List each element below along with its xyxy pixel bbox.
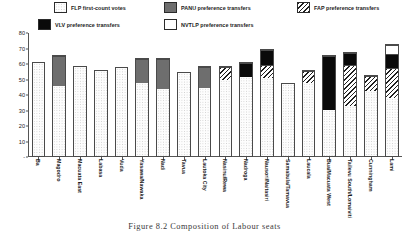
stacked-bar[interactable]: [239, 62, 253, 157]
stacked-bar[interactable]: [94, 70, 108, 157]
x-label-slot: Nasinu/Rewa: [215, 159, 236, 217]
bar-slot: [236, 33, 257, 157]
x-label-slot: Nadi: [153, 159, 174, 217]
stacked-bar[interactable]: [177, 72, 191, 157]
y-tick-label: 80: [19, 30, 25, 36]
stacked-bar[interactable]: [343, 52, 357, 157]
legend-item-flp: FLP first-count votes: [54, 2, 126, 13]
y-tick-label: 40: [19, 92, 25, 98]
bar-segment-fap: [261, 65, 273, 79]
bar-segment-fap: [220, 67, 232, 81]
y-tick-label: 20: [19, 123, 25, 129]
x-tick-label: Ba: [35, 159, 41, 166]
bar-segment-flp: [74, 67, 86, 156]
x-label-slot: Labasa: [90, 159, 111, 217]
x-tick-label: Nasinu/Rewa: [222, 159, 228, 192]
y-tick-label: 60: [19, 61, 25, 67]
y-tick-label: 30: [19, 108, 25, 114]
bar-slot: [153, 33, 174, 157]
x-label-slot: Ba: [28, 159, 49, 217]
dotted-light-swatch-icon: [54, 2, 67, 13]
bar-segment-flp: [136, 83, 148, 156]
legend-item-nvtlp: NVTLP preference transfers: [164, 19, 254, 30]
plot-area: -1020304050607080: [28, 33, 402, 157]
legend-label-nvtlp: NVTLP preference transfers: [181, 22, 254, 28]
bar-segment-vlv: [323, 56, 335, 111]
stacked-bar[interactable]: [219, 66, 233, 157]
x-label-slot: Nadroga: [236, 159, 257, 217]
bar-segment-panu: [199, 67, 211, 88]
stacked-bar[interactable]: [322, 55, 336, 157]
bar-slot: [340, 33, 361, 157]
x-label-slot: Bua/Macuata West: [319, 159, 340, 217]
x-label-slot: Cunningham: [361, 159, 382, 217]
bar-segment-flp: [199, 88, 211, 156]
y-tick-label: 10: [19, 139, 25, 145]
bar-segment-flp: [303, 83, 315, 156]
bar-segment-flp: [53, 86, 65, 156]
x-label-slot: Laucala: [298, 159, 319, 217]
bar-slot: [361, 33, 382, 157]
figure-container: FLP first-count votes PANU preference tr…: [0, 0, 409, 235]
bar-segment-nvtlp: [386, 45, 398, 54]
stacked-bar[interactable]: [198, 66, 212, 157]
bar-segment-fap: [303, 71, 315, 83]
bar-segment-flp: [365, 91, 377, 156]
x-tick-label: Tailevu South/Lomaiviti: [347, 159, 353, 218]
bar-slot: [215, 33, 236, 157]
x-label-slot: Tavua: [173, 159, 194, 217]
x-tick-label: Laucala: [306, 159, 312, 179]
solid-gray-swatch-icon: [164, 2, 177, 13]
bar-slot: [319, 33, 340, 157]
bar-segment-flp: [282, 84, 294, 156]
x-tick-label: Cunningham: [368, 159, 374, 191]
bar-segment-vlv: [240, 63, 252, 77]
x-tick-label: Yasawa/Nawaka: [139, 159, 145, 199]
bar-group: [28, 33, 402, 157]
bar-segment-flp: [344, 106, 356, 156]
x-tick-label: Nadroga: [243, 159, 249, 181]
stacked-bar[interactable]: [115, 67, 129, 157]
bar-segment-vlv: [261, 50, 273, 65]
stacked-bar[interactable]: [73, 66, 87, 157]
x-tick-label: Nausori/Naitasiri: [264, 159, 270, 201]
bar-segment-flp: [261, 78, 273, 156]
plain-white-swatch-icon: [164, 19, 177, 30]
legend-label-flp: FLP first-count votes: [71, 5, 126, 11]
x-tick-label: Macuata East: [77, 159, 83, 193]
bar-slot: [70, 33, 91, 157]
bar-segment-flp: [386, 98, 398, 156]
x-tick-label: Labasa: [98, 159, 104, 177]
bar-slot: [257, 33, 278, 157]
legend-label-vlv: VLV preference transfers: [55, 22, 120, 28]
x-label-slot: Magodro: [49, 159, 70, 217]
figure-caption: Figure 8.2 Composition of Labour seats: [0, 222, 409, 235]
x-label-slot: Macuata East: [70, 159, 91, 217]
y-tick-label: 50: [19, 77, 25, 83]
x-label-slot: Vuda: [111, 159, 132, 217]
stacked-bar[interactable]: [281, 83, 295, 157]
bar-segment-vlv: [344, 53, 356, 65]
stacked-bar[interactable]: [156, 58, 170, 157]
bar-slot: [194, 33, 215, 157]
x-label-slot: Yasawa/Nawaka: [132, 159, 153, 217]
bar-segment-flp: [95, 71, 107, 156]
stacked-bar[interactable]: [260, 49, 274, 158]
stacked-bar[interactable]: [135, 58, 149, 157]
stacked-bar[interactable]: [302, 70, 316, 157]
x-tick-label: Bua/Macuata West: [326, 159, 332, 206]
bar-segment-flp: [33, 63, 45, 156]
stacked-bar[interactable]: [52, 55, 66, 157]
bar-segment-fap: [365, 76, 377, 91]
legend-item-fap: FAP preference transfers: [297, 2, 379, 13]
legend-item-panu: PANU preference transfers: [164, 2, 251, 13]
x-label-slot: Lautoka City: [194, 159, 215, 217]
stacked-bar[interactable]: [385, 44, 399, 157]
bar-slot: [132, 33, 153, 157]
bar-slot: [381, 33, 402, 157]
bar-segment-panu: [53, 56, 65, 86]
y-tick-label: 70: [19, 46, 25, 52]
stacked-bar[interactable]: [32, 62, 46, 157]
bar-slot: [28, 33, 49, 157]
stacked-bar[interactable]: [364, 75, 378, 157]
